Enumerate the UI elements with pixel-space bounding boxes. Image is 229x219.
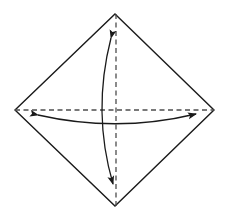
rhombus-diagram: Rhombus with dashed diagonals and curved… — [0, 0, 229, 219]
diagram-canvas: Rhombus with dashed diagonals and curved… — [0, 0, 229, 219]
